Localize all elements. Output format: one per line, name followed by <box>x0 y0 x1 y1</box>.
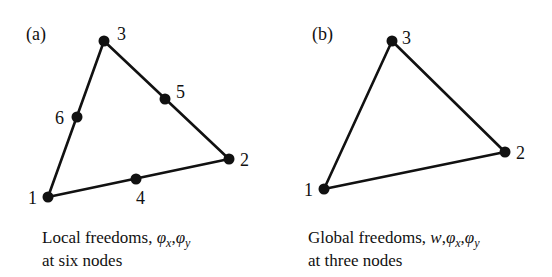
panel-a-six-node-triangle: 123456(a) <box>26 24 249 208</box>
node-2 <box>500 147 511 158</box>
panel-label-a: (a) <box>26 24 46 45</box>
panel-b-three-node-triangle: 123(b) <box>304 24 525 200</box>
caption-a-line2: at six nodes <box>42 251 190 271</box>
node-label-1: 1 <box>304 180 313 200</box>
caption-a: Local freedoms, φx,φy at six nodes <box>42 228 190 271</box>
node-2 <box>224 154 235 165</box>
node-4 <box>131 174 142 185</box>
node-1 <box>319 184 330 195</box>
node-label-2: 2 <box>516 143 525 163</box>
node-label-4: 4 <box>136 188 145 208</box>
edge-3-1 <box>324 41 392 189</box>
node-label-2: 2 <box>240 150 249 170</box>
caption-a-line1: Local freedoms, φx,φy <box>42 228 190 248</box>
panel-label-b: (b) <box>312 24 333 45</box>
node-label-1: 1 <box>28 188 37 208</box>
edge-2-3 <box>392 41 505 152</box>
node-label-3: 3 <box>117 24 126 44</box>
edge-1-2 <box>324 152 505 189</box>
node-3 <box>99 36 110 47</box>
node-label-3: 3 <box>402 28 411 48</box>
node-1 <box>43 192 54 203</box>
node-5 <box>160 94 171 105</box>
caption-b: Global freedoms, w,φx,φy at three nodes <box>308 228 480 271</box>
diagram-canvas: 123456(a) 123(b) <box>0 0 552 210</box>
caption-b-line1: Global freedoms, w,φx,φy <box>308 228 480 248</box>
node-label-6: 6 <box>55 108 64 128</box>
caption-b-line2: at three nodes <box>308 251 480 271</box>
node-label-5: 5 <box>176 82 185 102</box>
node-6 <box>72 112 83 123</box>
node-3 <box>387 36 398 47</box>
